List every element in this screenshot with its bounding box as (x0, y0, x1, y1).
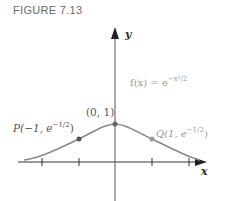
y-axis-label: y (124, 28, 133, 41)
peak-point (113, 122, 118, 127)
gaussian-plot: y x f(x) = e−x²/2 (0, 1) P(−1, e−1/2) Q(… (0, 0, 225, 201)
point-p (77, 137, 82, 142)
function-label: f(x) = e−x²/2 (130, 75, 187, 88)
peak-label: (0, 1) (86, 106, 114, 118)
point-q (150, 137, 155, 142)
point-q-label: Q(1, e−1/2) (156, 126, 208, 139)
point-p-label: P(−1, e−1/2) (12, 121, 74, 134)
x-axis-label: x (200, 165, 208, 178)
y-axis-arrow-icon (111, 27, 119, 39)
